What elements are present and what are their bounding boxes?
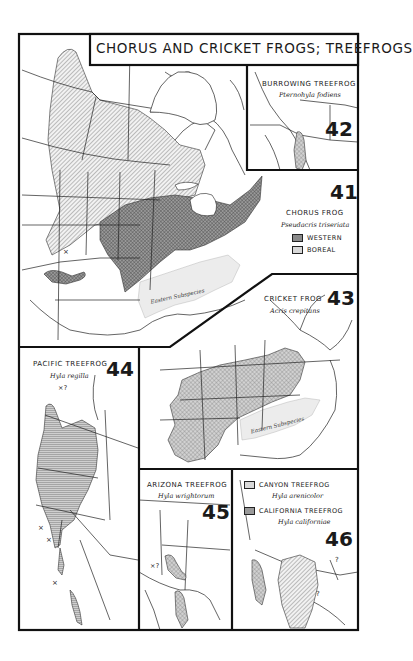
canyon-swatch — [244, 481, 255, 489]
legend-western: WESTERN — [292, 234, 342, 242]
marker-question: ? — [316, 590, 320, 598]
map-42-common-name: BURROWING TREEFROG — [262, 80, 356, 88]
map-45-scientific-name: Hyla wrightorum — [158, 492, 214, 500]
map-41-chorus-frog: × — [22, 47, 262, 340]
western-swatch — [292, 234, 303, 242]
map-41-scientific-name: Pseudacris triseriata — [281, 221, 349, 229]
marker-x: × — [63, 248, 69, 256]
plate-title: CHORUS AND CRICKET FROGS; TREEFROGS — [96, 40, 413, 56]
map-45-common-name: ARIZONA TREEFROG — [147, 481, 227, 489]
map-42-scientific-name: Pternohyla fodiens — [279, 91, 341, 99]
canyon-scientific-name: Hyla arenicolor — [272, 492, 323, 500]
map-44-marker-x-question: ×? — [58, 384, 68, 392]
map-41-number: 41 — [330, 180, 358, 204]
map-43-common-name: CRICKET FROG — [264, 295, 322, 303]
map-44-common-name: PACIFIC TREEFROG — [33, 360, 107, 368]
california-scientific-name: Hyla californiae — [278, 518, 330, 526]
marker-question: ? — [335, 556, 339, 564]
map-44-scientific-name: Hyla regilla — [50, 372, 89, 380]
map-45-number: 45 — [202, 500, 230, 524]
map-46-number: 46 — [325, 527, 353, 551]
map-43-cricket-frog — [160, 295, 352, 462]
marker-x: × — [38, 524, 44, 532]
western-range-lobe — [44, 270, 85, 284]
map-41-common-name: CHORUS FROG — [286, 209, 344, 217]
california-swatch — [244, 507, 255, 515]
map-45-marker-x-question: ×? — [150, 562, 160, 570]
legend-boreal: BOREAL — [292, 246, 336, 254]
legend-canyon-treefrog: CANYON TREEFROG — [244, 481, 330, 489]
map-43-scientific-name: Acris crepitans — [270, 307, 320, 315]
map-44-number: 44 — [106, 357, 134, 381]
map-42-number: 42 — [325, 117, 353, 141]
map-44-pacific-treefrog: × × × — [19, 347, 139, 630]
map-43-number: 43 — [327, 286, 355, 310]
legend-california-treefrog: CALIFORNIA TREEFROG — [244, 507, 343, 515]
boreal-swatch — [292, 246, 303, 254]
marker-x: × — [46, 536, 52, 544]
marker-x: × — [52, 579, 58, 587]
